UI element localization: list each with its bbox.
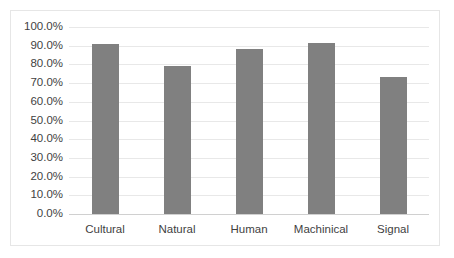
bar-natural bbox=[164, 66, 191, 214]
bar-signal bbox=[380, 77, 407, 214]
y-axis-tick-label: 80.0% bbox=[11, 59, 63, 71]
bar-series bbox=[69, 27, 429, 214]
x-axis-tick-label: Human bbox=[230, 218, 267, 240]
y-axis-tick-label: 0.0% bbox=[11, 208, 63, 220]
chart-container: 0.0%10.0%20.0%30.0%40.0%50.0%60.0%70.0%8… bbox=[10, 10, 440, 246]
y-axis-tick-label: 90.0% bbox=[11, 40, 63, 52]
x-axis-tick-label: Natural bbox=[158, 218, 195, 240]
gridline bbox=[69, 214, 429, 215]
y-axis-tick-label: 70.0% bbox=[11, 77, 63, 89]
y-axis-tick-label: 40.0% bbox=[11, 133, 63, 145]
y-axis-tick-label: 30.0% bbox=[11, 152, 63, 164]
bar-human bbox=[236, 49, 263, 214]
bar-cultural bbox=[92, 44, 119, 214]
y-axis-tick-label: 100.0% bbox=[11, 21, 63, 33]
y-axis-tick-label: 50.0% bbox=[11, 115, 63, 127]
bar-machinical bbox=[308, 43, 335, 214]
x-axis-tick-label: Machinical bbox=[294, 218, 348, 240]
x-axis: CulturalNaturalHumanMachinicalSignal bbox=[69, 218, 429, 240]
y-axis-tick-label: 60.0% bbox=[11, 96, 63, 108]
x-axis-tick-label: Cultural bbox=[85, 218, 125, 240]
x-axis-tick-label: Signal bbox=[377, 218, 409, 240]
y-axis: 0.0%10.0%20.0%30.0%40.0%50.0%60.0%70.0%8… bbox=[11, 27, 63, 214]
y-axis-tick-label: 20.0% bbox=[11, 171, 63, 183]
y-axis-tick-label: 10.0% bbox=[11, 190, 63, 202]
